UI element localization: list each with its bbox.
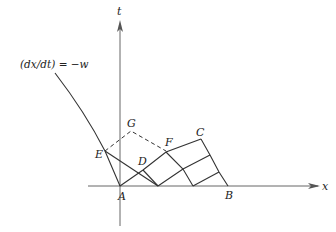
- point-F-label: F: [164, 136, 173, 149]
- characteristic-grid: [120, 139, 228, 186]
- x-axis-label: x: [322, 180, 329, 193]
- dashed-path-EGF: [105, 131, 166, 151]
- characteristics-diagram: t x (dx/dt) = −w A B C D E F G: [0, 0, 336, 232]
- boundary-curve: [55, 73, 120, 186]
- point-D-label: D: [137, 155, 147, 168]
- point-G-label: G: [127, 117, 136, 130]
- point-A-label: A: [117, 190, 126, 203]
- t-axis-label: t: [117, 5, 122, 18]
- point-C-label: C: [196, 126, 205, 139]
- point-E-label: E: [94, 148, 103, 161]
- point-B-label: B: [224, 189, 233, 202]
- equation-label: (dx/dt) = −w: [20, 58, 89, 70]
